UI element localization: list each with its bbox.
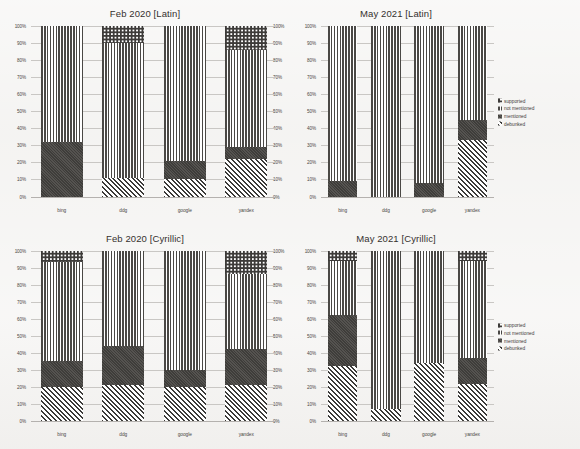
legend-label: mentioned bbox=[504, 114, 526, 119]
y-axis-tick-label: 90% bbox=[17, 41, 26, 46]
y-axis-tick-label: 20% bbox=[17, 384, 26, 389]
x-axis-tick-label: bing bbox=[328, 432, 357, 437]
bar-segment-mentioned[interactable] bbox=[458, 120, 487, 140]
y-axis-tick-label: 90% bbox=[307, 265, 316, 270]
bar-stack[interactable] bbox=[225, 26, 267, 197]
legend-item[interactable]: not mentioned bbox=[498, 106, 574, 111]
bar-segment-debunked[interactable] bbox=[458, 384, 487, 422]
y-axis-tick-label: 0% bbox=[20, 194, 26, 199]
bar-segment-supported[interactable] bbox=[328, 251, 357, 261]
bar-segment-not-mentioned[interactable] bbox=[102, 251, 144, 346]
legend-item[interactable]: mentioned bbox=[498, 114, 574, 119]
bar-segment-mentioned[interactable] bbox=[164, 161, 206, 180]
y-axis-labels-left: 100%90%80%70%60%50%40%30%20%10%0% bbox=[0, 26, 29, 197]
bar-segment-debunked[interactable] bbox=[225, 159, 267, 197]
bar-stack[interactable] bbox=[414, 251, 443, 422]
y-axis-tick-label: 90% bbox=[17, 265, 26, 270]
bar-segment-not-mentioned[interactable] bbox=[102, 43, 144, 178]
bar-segment-supported[interactable] bbox=[225, 26, 267, 50]
y-axis-tick-label: 50% bbox=[307, 109, 316, 114]
x-axis-tick-label: bing bbox=[328, 208, 357, 213]
bar-segment-not-mentioned[interactable] bbox=[41, 262, 83, 361]
chart-panel-feb-2020-latin: Feb 2020 [Latin] 100%90%80%70%60%50%40%3… bbox=[0, 0, 290, 225]
bar-segment-mentioned[interactable] bbox=[102, 346, 144, 385]
legend-item[interactable]: supported bbox=[498, 98, 574, 103]
bar-segment-not-mentioned[interactable] bbox=[371, 251, 400, 410]
bar-segment-debunked[interactable] bbox=[102, 385, 144, 421]
y-axis-tick-label: 40% bbox=[307, 126, 316, 131]
bar-segment-supported[interactable] bbox=[102, 26, 144, 43]
y-axis-tick-label: 40% bbox=[307, 350, 316, 355]
bar-segment-not-mentioned[interactable] bbox=[328, 26, 357, 181]
legend-swatch-mentioned bbox=[498, 114, 502, 118]
bar-segment-debunked[interactable] bbox=[102, 178, 144, 197]
legend-item[interactable]: debunked bbox=[498, 121, 574, 126]
bar-segment-not-mentioned[interactable] bbox=[458, 261, 487, 358]
bar-segment-not-mentioned[interactable] bbox=[458, 26, 487, 120]
legend-item[interactable]: debunked bbox=[498, 346, 574, 351]
bar-segment-mentioned[interactable] bbox=[328, 181, 357, 196]
y-axis-tick-label: 40% bbox=[17, 126, 26, 131]
y-axis-tick-label: 100% bbox=[15, 24, 26, 29]
bar-segment-supported[interactable] bbox=[458, 251, 487, 261]
gridline bbox=[321, 197, 494, 198]
bar-stack[interactable] bbox=[102, 26, 144, 197]
legend-swatch-not-mentioned bbox=[498, 106, 502, 110]
bar-segment-not-mentioned[interactable] bbox=[225, 50, 267, 147]
bar-segment-not-mentioned[interactable] bbox=[164, 26, 206, 161]
bar-segment-debunked[interactable] bbox=[164, 179, 206, 196]
bar-segment-debunked[interactable] bbox=[328, 366, 357, 421]
bar-stack[interactable] bbox=[164, 251, 206, 422]
bar-segment-mentioned[interactable] bbox=[414, 183, 443, 197]
legend-item[interactable]: supported bbox=[498, 323, 574, 328]
bar-segment-mentioned[interactable] bbox=[164, 370, 206, 387]
y-axis-tick-label: 30% bbox=[17, 143, 26, 148]
legend-item[interactable]: not mentioned bbox=[498, 330, 574, 335]
bar-segment-not-mentioned[interactable] bbox=[41, 26, 83, 142]
bar-segment-not-mentioned[interactable] bbox=[225, 274, 267, 349]
bar-segment-debunked[interactable] bbox=[225, 385, 267, 421]
bar-segment-debunked[interactable] bbox=[41, 387, 83, 421]
bar-stack[interactable] bbox=[164, 26, 206, 197]
legend-swatch-not-mentioned bbox=[498, 331, 502, 335]
x-axis-tick-label: ddg bbox=[102, 208, 144, 213]
bar-segment-debunked[interactable] bbox=[458, 140, 487, 196]
bar-segment-not-mentioned[interactable] bbox=[328, 261, 357, 316]
x-axis-tick-label: yandex bbox=[225, 208, 267, 213]
legend-label: debunked bbox=[504, 121, 525, 126]
bar-stack[interactable] bbox=[328, 251, 357, 422]
bar-segment-debunked[interactable] bbox=[164, 387, 206, 421]
bar-segment-debunked[interactable] bbox=[414, 363, 443, 421]
bar-stack[interactable] bbox=[458, 251, 487, 422]
bar-segment-mentioned[interactable] bbox=[41, 142, 83, 197]
bar-stack[interactable] bbox=[458, 26, 487, 197]
bar-segment-not-mentioned[interactable] bbox=[414, 26, 443, 183]
bar-segment-mentioned[interactable] bbox=[458, 358, 487, 384]
y-axis-tick-label: 60% bbox=[307, 92, 316, 97]
bar-segment-not-mentioned[interactable] bbox=[414, 251, 443, 364]
bar-segment-not-mentioned[interactable] bbox=[371, 26, 400, 197]
legend-label: supported bbox=[504, 323, 525, 328]
bar-stack[interactable] bbox=[41, 26, 83, 197]
bar-stack[interactable] bbox=[414, 26, 443, 197]
y-axis-tick-label: 20% bbox=[307, 384, 316, 389]
bar-segment-mentioned[interactable] bbox=[328, 315, 357, 366]
legend-item[interactable]: mentioned bbox=[498, 338, 574, 343]
bar-stack[interactable] bbox=[328, 26, 357, 197]
bar-stack[interactable] bbox=[371, 26, 400, 197]
bar-segment-supported[interactable] bbox=[225, 251, 267, 275]
bar-segment-mentioned[interactable] bbox=[225, 349, 267, 385]
bar-segment-not-mentioned[interactable] bbox=[164, 251, 206, 370]
bar-segment-mentioned[interactable] bbox=[41, 361, 83, 387]
y-axis-tick-label: 0% bbox=[310, 194, 316, 199]
bar-segment-supported[interactable] bbox=[41, 251, 83, 263]
bar-stack[interactable] bbox=[225, 251, 267, 422]
bar-stack[interactable] bbox=[41, 251, 83, 422]
bar-stack[interactable] bbox=[371, 251, 400, 422]
bar-segment-debunked[interactable] bbox=[371, 409, 400, 421]
legend-swatch-mentioned bbox=[498, 339, 502, 343]
chart-title: May 2021 [Cyrillic] bbox=[290, 233, 580, 244]
bar-stack[interactable] bbox=[102, 251, 144, 422]
y-axis-tick-label: 80% bbox=[307, 58, 316, 63]
bar-segment-mentioned[interactable] bbox=[225, 147, 267, 159]
